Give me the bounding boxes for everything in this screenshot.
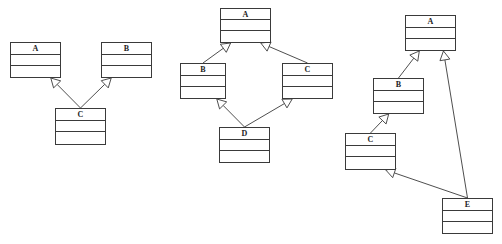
generalization-arrow <box>440 51 468 198</box>
class-operations <box>443 222 492 233</box>
class-attributes <box>181 76 225 87</box>
class-attributes <box>443 211 492 222</box>
hollow-triangle-arrowhead-icon <box>261 42 271 51</box>
class-operations <box>56 132 105 144</box>
class-operations <box>406 39 455 50</box>
class-box-b[interactable]: B <box>180 63 226 99</box>
class-operations <box>102 66 151 77</box>
generalization-arrow <box>217 99 245 127</box>
generalization-arrow <box>261 42 308 63</box>
generalization-arrow <box>245 99 293 127</box>
class-box-a[interactable]: A <box>10 42 61 78</box>
generalization-arrow <box>203 43 231 63</box>
generalization-arrow <box>386 168 468 198</box>
uml-canvas: A B C A B C D A B <box>0 0 502 244</box>
class-name: C <box>56 109 105 121</box>
class-box-c[interactable]: C <box>55 108 106 145</box>
class-operations <box>221 31 270 42</box>
class-name: B <box>102 43 151 55</box>
class-name: B <box>181 64 225 76</box>
hollow-triangle-arrowhead-icon <box>440 51 450 61</box>
class-name: E <box>443 199 492 211</box>
class-attributes <box>221 20 270 31</box>
class-box-c[interactable]: C <box>345 133 396 170</box>
hollow-triangle-arrowhead-icon <box>282 99 292 108</box>
class-operations <box>220 151 269 162</box>
class-operations <box>374 102 423 113</box>
class-name: A <box>406 16 455 28</box>
class-name: C <box>346 134 395 146</box>
class-attributes <box>102 55 151 66</box>
class-box-c[interactable]: C <box>282 63 333 99</box>
class-attributes <box>283 76 332 87</box>
class-attributes <box>374 91 423 102</box>
hollow-triangle-arrowhead-icon <box>220 43 230 52</box>
class-box-b[interactable]: B <box>373 78 424 114</box>
generalization-arrow <box>371 114 389 133</box>
generalization-arrow <box>399 51 420 78</box>
class-name: C <box>283 64 332 76</box>
class-box-a[interactable]: A <box>220 8 271 43</box>
class-box-b[interactable]: B <box>101 42 152 78</box>
generalization-arrow <box>51 78 81 108</box>
class-box-e[interactable]: E <box>442 198 493 234</box>
hollow-triangle-arrowhead-icon <box>410 51 419 61</box>
generalization-arrow <box>81 78 112 108</box>
class-attributes <box>346 146 395 158</box>
class-operations <box>11 66 60 77</box>
class-name: A <box>11 43 60 55</box>
class-name: B <box>374 79 423 91</box>
class-box-d[interactable]: D <box>219 127 270 163</box>
class-name: A <box>221 9 270 20</box>
class-attributes <box>56 121 105 133</box>
class-attributes <box>220 140 269 151</box>
class-operations <box>346 157 395 169</box>
class-operations <box>181 87 225 98</box>
class-attributes <box>11 55 60 66</box>
class-operations <box>283 87 332 98</box>
class-box-a[interactable]: A <box>405 15 456 51</box>
class-attributes <box>406 28 455 39</box>
class-name: D <box>220 128 269 140</box>
